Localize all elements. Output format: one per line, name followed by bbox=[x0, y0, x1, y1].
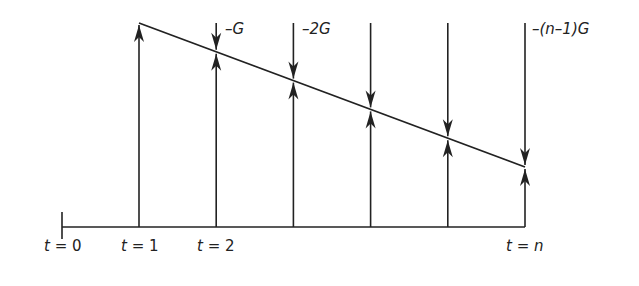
gradient-line bbox=[139, 23, 525, 167]
time-label-2: t = 2 bbox=[197, 237, 235, 255]
time-label-n: t = n bbox=[506, 237, 544, 255]
gradient-label-n-1g: –(n–1)G bbox=[532, 20, 589, 38]
gradient-label-g: –G bbox=[225, 20, 244, 38]
gradient-cashflow-diagram: t = 0 t = 1 t = 2 t = n –G –2G –(n–1)G bbox=[0, 0, 639, 286]
gradient-label-2g: –2G bbox=[302, 20, 331, 38]
time-label-0: t = 0 bbox=[44, 237, 82, 255]
time-label-1: t = 1 bbox=[121, 237, 159, 255]
